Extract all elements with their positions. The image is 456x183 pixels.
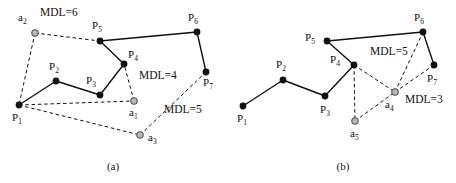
trajectory-point-P7[interactable] [431, 62, 438, 69]
solid-edge-P5-P6 [100, 32, 197, 41]
solid-edge-P3-P4 [325, 65, 354, 96]
solid-edge-P1-P2 [19, 81, 56, 105]
trajectory-label-sub-P7: 7 [433, 78, 437, 87]
trajectory-label-P4: P4 [128, 48, 138, 63]
trajectory-label-P5: P5 [92, 19, 102, 34]
anchor-label-a2: a2 [18, 11, 27, 26]
trajectory-label-P6: P6 [414, 11, 424, 26]
anchor-label-sub-a1: 1 [134, 112, 138, 121]
anchor-label-a5: a5 [350, 127, 359, 142]
trajectory-label-sub-P3: 3 [326, 109, 330, 118]
trajectory-label-sub-P6: 6 [194, 17, 198, 26]
panel-caption-panel-b: (b) [337, 160, 350, 173]
trajectory-label-P3: P3 [320, 103, 330, 118]
dashed-edge-a4-P6 [395, 32, 423, 92]
dashed-edge-a2-P1 [19, 33, 35, 105]
trajectory-label-sub-P5: 5 [98, 25, 102, 34]
trajectory-point-P1[interactable] [16, 102, 23, 109]
trajectory-label-P2: P2 [276, 58, 286, 73]
trajectory-point-P5[interactable] [97, 38, 104, 45]
mdl-label-1: MDL=5 [370, 45, 408, 57]
anchor-point-a1[interactable] [131, 98, 137, 104]
panel-caption-panel-a: (a) [107, 160, 120, 173]
anchor-point-a5[interactable] [352, 118, 358, 124]
anchor-label-sub-a5: 5 [355, 133, 359, 142]
trajectory-point-P6[interactable] [194, 29, 201, 36]
solid-edge-P2-P3 [283, 80, 325, 96]
trajectory-label-P2: P2 [49, 60, 59, 75]
trajectory-point-P2[interactable] [280, 77, 287, 84]
trajectory-label-P1: P1 [12, 111, 22, 126]
solid-edge-P3-P4 [100, 64, 124, 95]
trajectory-label-P4: P4 [330, 53, 340, 68]
solid-edge-P1-P2 [243, 80, 283, 106]
figure-container: a1a2a3P1P2P3P4P5P6P7MDL=6MDL=4MDL=5(a)a4… [0, 0, 456, 183]
anchor-label-sub-a4: 4 [390, 104, 394, 113]
trajectory-label-P7: P7 [203, 76, 213, 91]
trajectory-label-sub-P5: 5 [311, 37, 315, 46]
trajectory-label-sub-P3: 3 [92, 80, 96, 89]
trajectory-label-sub-P6: 6 [420, 17, 424, 26]
anchor-point-a4[interactable] [392, 89, 398, 95]
trajectory-label-P1: P1 [237, 112, 247, 127]
solid-edge-P6-P7 [423, 32, 434, 65]
anchor-label-a1: a1 [129, 106, 138, 121]
trajectory-label-sub-P1: 1 [18, 117, 22, 126]
panel-b: a4a5P1P2P3P4P5P6P7MDL=5MDL=3(b) [237, 11, 443, 173]
solid-edge-P5-P6 [327, 32, 423, 41]
mdl-label-2: MDL=4 [139, 69, 177, 81]
dashed-edge-P4-a5 [354, 65, 355, 121]
trajectory-point-P2[interactable] [53, 78, 60, 85]
trajectory-label-sub-P4: 4 [336, 59, 340, 68]
trajectory-label-P7: P7 [427, 72, 437, 87]
trajectory-label-sub-P7: 7 [209, 82, 213, 91]
trajectory-diagram: a1a2a3P1P2P3P4P5P6P7MDL=6MDL=4MDL=5(a)a4… [0, 0, 456, 183]
trajectory-point-P4[interactable] [121, 61, 128, 68]
trajectory-point-P6[interactable] [420, 29, 427, 36]
anchor-label-a4: a4 [385, 98, 394, 113]
solid-edge-P4-P5 [100, 41, 124, 64]
anchor-label-sub-a3: 3 [153, 137, 157, 146]
trajectory-point-P4[interactable] [351, 62, 358, 69]
solid-edge-P6-P7 [197, 32, 206, 72]
dashed-edge-P4-a4 [354, 65, 395, 92]
mdl-label-2: MDL=3 [405, 93, 443, 105]
panel-a: a1a2a3P1P2P3P4P5P6P7MDL=6MDL=4MDL=5(a) [12, 6, 213, 173]
trajectory-point-P5[interactable] [324, 38, 331, 45]
trajectory-label-sub-P2: 2 [55, 66, 59, 75]
dashed-edge-P1-a3 [19, 105, 140, 135]
anchor-point-a3[interactable] [137, 132, 143, 138]
dashed-edge-a2-P5 [35, 33, 100, 41]
trajectory-label-sub-P4: 4 [134, 54, 138, 63]
trajectory-label-P6: P6 [188, 11, 198, 26]
anchor-point-a2[interactable] [32, 30, 38, 36]
trajectory-label-sub-P1: 1 [243, 118, 247, 127]
dashed-edge-P1-a1 [19, 101, 134, 105]
trajectory-point-P1[interactable] [240, 103, 247, 110]
anchor-label-a3: a3 [148, 131, 157, 146]
mdl-label-3: MDL=5 [164, 103, 202, 115]
trajectory-point-P7[interactable] [203, 69, 210, 76]
trajectory-label-sub-P2: 2 [282, 64, 286, 73]
mdl-label-1: MDL=6 [40, 6, 78, 18]
trajectory-point-P3[interactable] [322, 93, 329, 100]
dashed-edge-a1-P4 [124, 64, 134, 101]
trajectory-point-P3[interactable] [97, 92, 104, 99]
anchor-label-sub-a2: 2 [23, 17, 27, 26]
trajectory-label-P5: P5 [305, 31, 315, 46]
trajectory-label-P3: P3 [86, 74, 96, 89]
